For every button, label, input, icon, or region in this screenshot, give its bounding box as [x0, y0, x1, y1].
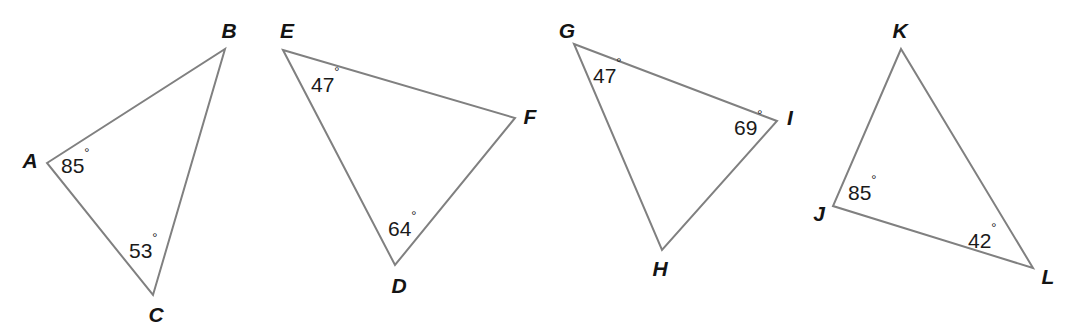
vertex-label-f: F: [524, 105, 538, 128]
vertex-label-e: E: [280, 19, 295, 42]
angle-label-d: 64°: [388, 208, 417, 240]
vertex-label-h: H: [652, 257, 668, 280]
triangle-def: EFD47°64°: [280, 19, 538, 297]
vertex-label-a: A: [21, 149, 37, 172]
vertex-label-g: G: [559, 19, 575, 42]
degree-symbol-icon: °: [334, 64, 339, 79]
angle-label-i: 69°: [734, 107, 763, 139]
angle-value-e: 47: [311, 73, 334, 96]
angle-label-c: 53°: [129, 230, 158, 262]
triangle-ghi: GIH47°69°: [559, 19, 794, 280]
degree-symbol-icon: °: [757, 107, 762, 122]
angle-label-j: 85°: [848, 172, 877, 204]
degree-symbol-icon: °: [84, 145, 89, 160]
triangle-abc: ABC85°53°: [21, 19, 236, 326]
angle-value-l: 42: [968, 229, 991, 252]
angle-value-j: 85: [848, 181, 871, 204]
vertex-label-c: C: [148, 303, 164, 326]
angle-label-l: 42°: [968, 220, 997, 252]
vertex-label-j: J: [813, 202, 826, 225]
angle-label-a: 85°: [61, 145, 90, 177]
triangle-jkl-outline: [833, 49, 1033, 268]
degree-symbol-icon: °: [991, 220, 996, 235]
vertex-label-l: L: [1042, 265, 1055, 288]
angle-value-i: 69: [734, 116, 757, 139]
vertex-label-k: K: [892, 19, 909, 42]
vertex-label-i: I: [787, 106, 794, 129]
angle-value-c: 53: [129, 239, 152, 262]
degree-symbol-icon: °: [411, 208, 416, 223]
triangle-jkl: KJL85°42°: [813, 19, 1054, 288]
angle-value-g: 47: [593, 64, 616, 87]
angle-value-d: 64: [388, 217, 412, 240]
degree-symbol-icon: °: [616, 55, 621, 70]
triangles-diagram: ABC85°53°EFD47°64°GIH47°69°KJL85°42°: [0, 0, 1072, 330]
angle-value-a: 85: [61, 154, 84, 177]
angle-label-e: 47°: [311, 64, 340, 96]
degree-symbol-icon: °: [152, 230, 157, 245]
angle-label-g: 47°: [593, 55, 622, 87]
vertex-label-b: B: [221, 19, 236, 42]
figure-canvas: ABC85°53°EFD47°64°GIH47°69°KJL85°42°: [0, 0, 1072, 330]
degree-symbol-icon: °: [871, 172, 876, 187]
vertex-label-d: D: [391, 274, 406, 297]
